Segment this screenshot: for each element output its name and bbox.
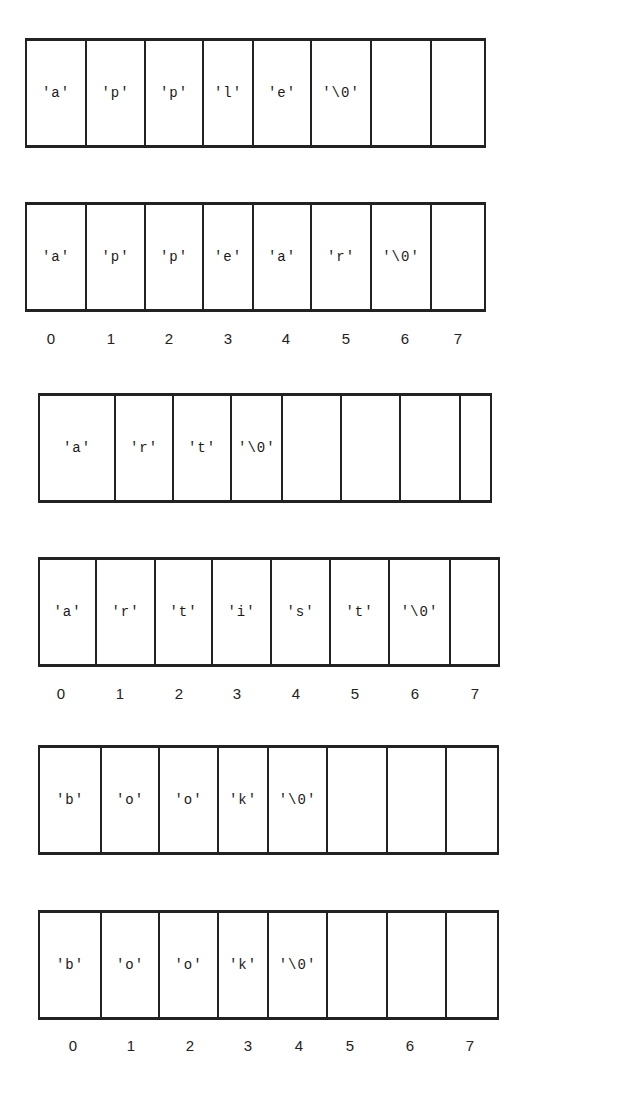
cell-char: 'r' (130, 440, 158, 456)
cell-char: 'k' (229, 792, 257, 808)
index-label: 0 (63, 1037, 83, 1054)
array-cell: 'a' (27, 205, 87, 309)
cell-char: '\0' (279, 957, 317, 973)
array-cell (283, 396, 342, 500)
array-cell (447, 913, 497, 1017)
index-label: 0 (51, 685, 71, 702)
array-cell (388, 913, 447, 1017)
index-label: 6 (405, 685, 425, 702)
cell-char: 'a' (53, 604, 81, 620)
cell-char: 't' (169, 604, 197, 620)
cell-char: '\0' (382, 249, 420, 265)
array-cell (388, 748, 447, 852)
array-cell: 'k' (219, 913, 269, 1017)
array-cell (328, 913, 388, 1017)
array-cell (447, 748, 497, 852)
array-cell (461, 396, 490, 500)
index-label: 2 (159, 330, 179, 347)
cell-char: 'o' (174, 792, 202, 808)
array-cell (432, 205, 484, 309)
cell-char: 'b' (56, 792, 84, 808)
array-cell (401, 396, 461, 500)
index-label: 7 (448, 330, 468, 347)
array-cell: 'e' (204, 205, 254, 309)
array-cell: 'r' (312, 205, 372, 309)
array-cell (328, 748, 388, 852)
index-row: 0 1 2 3 4 5 6 7 (0, 1037, 619, 1057)
array-cell: 'k' (219, 748, 269, 852)
index-label: 4 (276, 330, 296, 347)
cell-char: 'r' (327, 249, 355, 265)
array-cell: '\0' (312, 41, 372, 145)
index-label: 1 (101, 330, 121, 347)
array-cell: '\0' (372, 205, 432, 309)
cell-char: 't' (345, 604, 373, 620)
array-cell (372, 41, 432, 145)
array-cell: 't' (156, 560, 213, 664)
array-cell: 'a' (27, 41, 87, 145)
array-cell: '\0' (390, 560, 451, 664)
array-cell: '\0' (232, 396, 283, 500)
array-cell: 's' (272, 560, 331, 664)
array-cell: 'p' (146, 205, 204, 309)
array-cell: 'i' (213, 560, 272, 664)
array-cell: 'p' (146, 41, 204, 145)
cell-char: 'p' (160, 249, 188, 265)
cell-char: 'a' (42, 85, 70, 101)
index-label: 5 (336, 330, 356, 347)
cell-char: 'a' (42, 249, 70, 265)
array-cell: 't' (331, 560, 390, 664)
array-cell: 'o' (102, 748, 160, 852)
index-label: 3 (218, 330, 238, 347)
index-label: 4 (286, 685, 306, 702)
cell-char: 'e' (214, 249, 242, 265)
array-cell: 'r' (97, 560, 156, 664)
array-cell: 'p' (87, 41, 146, 145)
index-label: 6 (395, 330, 415, 347)
array-cell: 'b' (40, 913, 102, 1017)
cell-char: 'o' (116, 957, 144, 973)
array-cell: 'b' (40, 748, 102, 852)
index-label: 5 (345, 685, 365, 702)
cell-char: 'e' (268, 85, 296, 101)
index-label: 1 (110, 685, 130, 702)
cell-char: 't' (188, 440, 216, 456)
array-cell: 'a' (40, 396, 116, 500)
index-row: 0 1 2 3 4 5 6 7 (0, 330, 619, 350)
array-cell: 'e' (254, 41, 312, 145)
array-cell: 'r' (116, 396, 174, 500)
cell-char: 'o' (116, 792, 144, 808)
index-label: 3 (238, 1037, 258, 1054)
array-cell (451, 560, 498, 664)
array-cell: 'o' (160, 748, 219, 852)
array-cell: 'a' (40, 560, 97, 664)
cell-char: 's' (286, 604, 314, 620)
index-label: 2 (169, 685, 189, 702)
cell-char: '\0' (401, 604, 439, 620)
cell-char: 'i' (227, 604, 255, 620)
array-cell (342, 396, 401, 500)
index-label: 5 (340, 1037, 360, 1054)
cell-char: 'r' (111, 604, 139, 620)
array-cell: '\0' (269, 748, 328, 852)
index-label: 3 (227, 685, 247, 702)
array-cell: 't' (174, 396, 232, 500)
array-cell: 'o' (160, 913, 219, 1017)
cell-char: 'p' (101, 249, 129, 265)
cell-char: 'p' (160, 85, 188, 101)
array-cell: 'a' (254, 205, 312, 309)
index-row: 0 1 2 3 4 5 6 7 (0, 685, 619, 705)
index-label: 2 (180, 1037, 200, 1054)
array-cell (432, 41, 484, 145)
char-array-art: 'a' 'r' 't' '\0' (38, 393, 492, 503)
array-cell: 'o' (102, 913, 160, 1017)
char-array-book-2: 'b' 'o' 'o' 'k' '\0' (38, 910, 499, 1020)
char-array-apple: 'a' 'p' 'p' 'l' 'e' '\0' (25, 38, 486, 148)
index-label: 7 (460, 1037, 480, 1054)
index-label: 1 (121, 1037, 141, 1054)
index-label: 6 (400, 1037, 420, 1054)
cell-char: 'b' (56, 957, 84, 973)
cell-char: 'o' (174, 957, 202, 973)
array-cell: 'l' (204, 41, 254, 145)
cell-char: '\0' (238, 440, 276, 456)
